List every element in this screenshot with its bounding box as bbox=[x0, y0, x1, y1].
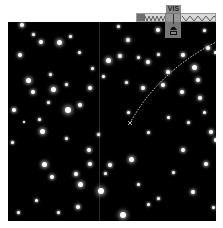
star bbox=[87, 148, 91, 152]
star bbox=[57, 211, 60, 214]
star bbox=[137, 56, 140, 59]
star bbox=[65, 107, 71, 113]
star bbox=[157, 53, 160, 56]
star bbox=[137, 183, 140, 186]
star bbox=[129, 157, 134, 162]
band-selector-handle[interactable] bbox=[165, 13, 181, 38]
sky-image[interactable] bbox=[8, 22, 216, 221]
star bbox=[50, 175, 54, 179]
star bbox=[203, 111, 206, 114]
star bbox=[117, 25, 120, 28]
star bbox=[12, 108, 16, 112]
star bbox=[214, 51, 217, 54]
star bbox=[167, 116, 170, 119]
star bbox=[88, 86, 92, 90]
star bbox=[196, 78, 200, 82]
star bbox=[214, 138, 216, 142]
star bbox=[11, 141, 14, 144]
star bbox=[127, 111, 130, 114]
star bbox=[206, 46, 210, 50]
band-label: VIS bbox=[166, 5, 181, 13]
star bbox=[198, 96, 202, 100]
star bbox=[187, 121, 190, 124]
star bbox=[157, 197, 160, 200]
star bbox=[32, 33, 35, 36]
star bbox=[31, 90, 35, 94]
star bbox=[17, 211, 20, 214]
star bbox=[106, 58, 111, 63]
star bbox=[78, 51, 81, 54]
star bbox=[65, 137, 68, 140]
star bbox=[69, 35, 72, 38]
star bbox=[204, 162, 208, 166]
star bbox=[47, 101, 50, 104]
telescope-icon bbox=[169, 24, 178, 36]
star bbox=[126, 38, 130, 42]
star bbox=[156, 28, 160, 32]
star bbox=[161, 83, 165, 87]
star bbox=[141, 86, 145, 90]
star bbox=[88, 162, 92, 166]
star bbox=[209, 130, 213, 134]
star bbox=[26, 78, 31, 83]
star bbox=[97, 133, 100, 136]
star bbox=[108, 163, 112, 167]
star bbox=[191, 190, 195, 194]
star bbox=[146, 60, 150, 64]
star bbox=[65, 83, 68, 86]
star bbox=[203, 29, 206, 32]
star bbox=[23, 121, 25, 123]
star bbox=[38, 118, 41, 121]
star bbox=[74, 172, 78, 176]
band-marker-line bbox=[173, 14, 174, 24]
star bbox=[102, 75, 105, 78]
star bbox=[125, 81, 128, 84]
star bbox=[20, 23, 24, 27]
star bbox=[192, 65, 197, 70]
star bbox=[98, 188, 104, 194]
star bbox=[42, 162, 47, 167]
star bbox=[49, 73, 52, 76]
star bbox=[181, 53, 185, 57]
star bbox=[166, 70, 170, 74]
star bbox=[118, 54, 122, 58]
star bbox=[104, 172, 107, 175]
star bbox=[76, 205, 80, 209]
star bbox=[18, 53, 22, 57]
star bbox=[57, 40, 62, 45]
star bbox=[181, 148, 185, 152]
star bbox=[91, 67, 94, 70]
star bbox=[147, 203, 150, 206]
star bbox=[147, 131, 150, 134]
star bbox=[78, 182, 83, 187]
star bbox=[40, 129, 45, 134]
star bbox=[51, 87, 56, 92]
star bbox=[39, 40, 43, 44]
star bbox=[180, 90, 184, 94]
star bbox=[78, 103, 82, 107]
star bbox=[35, 199, 38, 202]
star bbox=[212, 206, 215, 209]
star bbox=[172, 171, 175, 174]
star bbox=[120, 212, 126, 218]
